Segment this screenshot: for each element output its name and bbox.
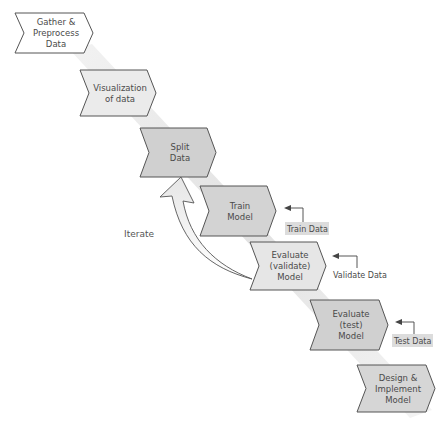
step-label: Visualization (93, 83, 147, 93)
iterate-label: Iterate (124, 229, 154, 239)
data-label: Validate Data (333, 271, 387, 280)
step-label: Data (170, 153, 190, 163)
arrow-left-icon (395, 319, 402, 325)
train-data-input: Train Data (284, 205, 329, 235)
step-validate: Evaluate(validate)Model (250, 242, 326, 290)
step-visualization: Visualizationof data (80, 70, 156, 116)
step-label: Model (227, 212, 253, 222)
step-label: of data (105, 94, 135, 104)
step-label: Gather & (37, 17, 76, 27)
connector-line (338, 256, 357, 268)
step-label: Model (338, 331, 364, 341)
test-data-input: Test Data (392, 319, 433, 347)
connector-line (401, 322, 414, 334)
step-design: Design &ImplementModel (357, 365, 435, 412)
step-label: Model (385, 395, 411, 405)
step-label: Split (171, 142, 191, 152)
step-label: (test) (340, 320, 363, 330)
validate-data-input: Validate Data (332, 253, 387, 280)
step-label: Model (277, 272, 303, 282)
step-label: Implement (375, 384, 422, 394)
connector-line (290, 208, 303, 222)
step-label: Evaluate (332, 309, 369, 319)
step-split: SplitData (140, 128, 216, 177)
step-label: Data (46, 39, 66, 49)
step-label: Evaluate (271, 250, 308, 260)
step-label: Preprocess (33, 28, 80, 38)
step-gather: Gather &PreprocessData (15, 13, 93, 53)
data-label: Test Data (393, 337, 431, 346)
ml-workflow-diagram: Gather &PreprocessDataVisualizationof da… (0, 0, 447, 426)
data-label: Train Data (286, 225, 328, 234)
step-label: Design & (379, 373, 418, 383)
step-label: (validate) (270, 261, 311, 271)
arrow-left-icon (284, 205, 291, 211)
step-label: Train (229, 201, 250, 211)
arrow-left-icon (332, 253, 339, 259)
step-train: TrainModel (200, 186, 276, 236)
step-test: Evaluate(test)Model (310, 300, 388, 350)
